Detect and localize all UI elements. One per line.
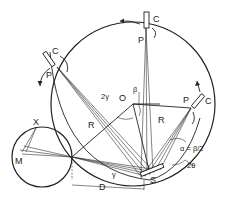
label-gamma: γ <box>112 170 116 179</box>
incident-rays <box>20 128 158 176</box>
label-D: D <box>99 182 106 192</box>
label-X: X <box>33 117 39 127</box>
label-C-top: C <box>153 14 160 24</box>
label-M: M <box>15 156 23 166</box>
label-R-left: R <box>88 120 95 130</box>
label-R-right: R <box>158 115 165 125</box>
two-gamma-arc <box>117 117 133 119</box>
label-O: O <box>119 93 126 103</box>
label-P-left: P <box>46 70 52 80</box>
rays-top-detector <box>141 28 153 172</box>
label-C-right: C <box>205 96 212 106</box>
label-P-right: P <box>183 95 189 105</box>
label-C-left: C <box>52 46 59 56</box>
label-S: S <box>150 175 156 185</box>
beta-arc <box>138 104 140 116</box>
rays-right-detector <box>142 108 191 176</box>
label-P-top: P <box>138 35 144 45</box>
secondary-arc <box>50 52 200 180</box>
diffraction-geometry-diagram: C P C P C P X M O β 2γ R R α = β/2 2θ γ … <box>0 0 228 201</box>
label-two-theta: 2θ <box>187 161 195 170</box>
label-alpha: α = β/2 <box>180 144 203 153</box>
label-two-gamma: 2γ <box>101 92 109 101</box>
detector-left <box>38 51 68 86</box>
detector-right <box>191 81 204 124</box>
label-beta: β <box>133 85 138 94</box>
